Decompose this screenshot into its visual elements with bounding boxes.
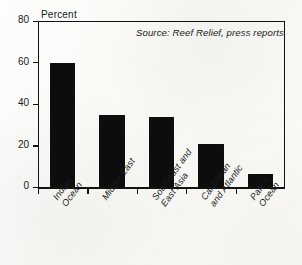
y-tick-label: 60 <box>18 56 29 67</box>
y-tick-mark <box>33 104 38 105</box>
x-tick-mark <box>87 189 88 194</box>
x-tick-mark <box>137 189 138 194</box>
y-tick-label: 0 <box>23 180 29 191</box>
y-tick-label: 20 <box>18 139 29 150</box>
y-tick-mark <box>33 62 38 63</box>
y-tick-mark <box>33 145 38 146</box>
y-tick-mark <box>33 21 38 22</box>
x-tick-mark <box>236 189 237 194</box>
y-tick-label: 80 <box>18 14 29 25</box>
x-tick-mark <box>186 189 187 194</box>
y-tick-label: 40 <box>18 97 29 108</box>
bar-chart-figure: Percent 020406080 IndianOceanMiddle East… <box>0 0 302 265</box>
bar <box>50 63 76 188</box>
y-axis-title: Percent <box>41 9 77 20</box>
source-annotation: Source: Reef Relief, press reports <box>136 27 284 38</box>
x-tick-mark <box>38 189 39 194</box>
